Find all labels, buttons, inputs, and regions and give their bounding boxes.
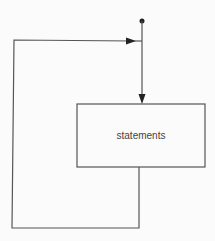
statements-label: statements — [77, 104, 205, 167]
loop-diagram: statements — [0, 0, 215, 241]
down-arrow-icon — [139, 94, 146, 104]
